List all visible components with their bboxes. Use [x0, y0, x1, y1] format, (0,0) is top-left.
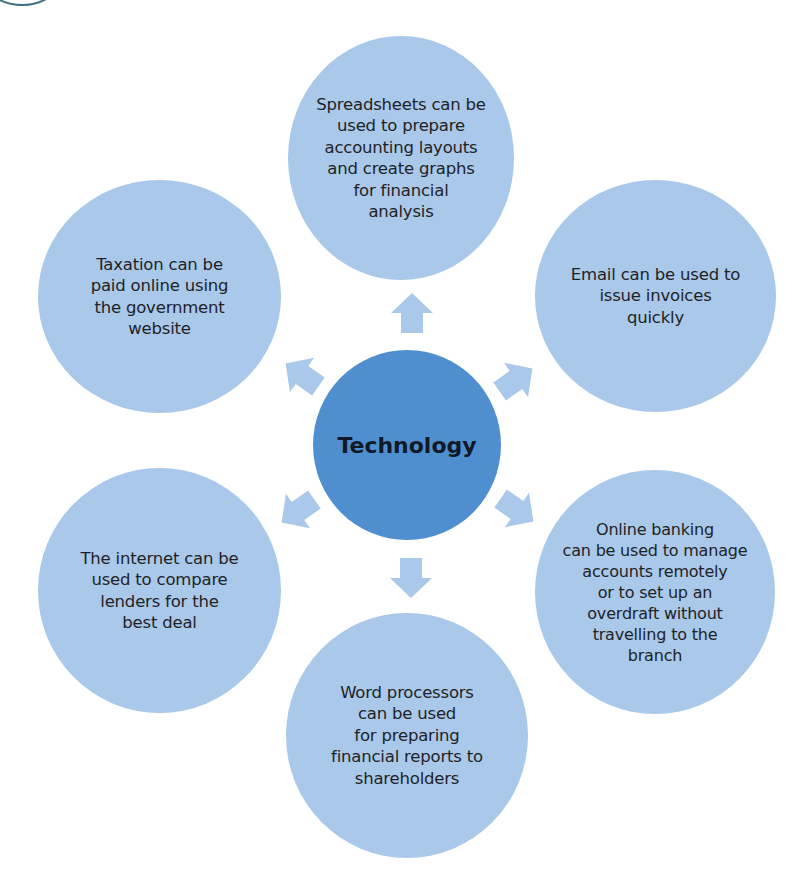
node-online-banking-text: Online banking can be used to manage acc… [557, 519, 754, 666]
arrow-up-left-icon [274, 346, 331, 403]
center-node-technology: Technology [313, 350, 501, 540]
node-internet-text: The internet can be used to compare lend… [74, 548, 244, 634]
center-node-label: Technology [337, 433, 476, 458]
decorative-corner-arc [0, 0, 74, 6]
node-email-text: Email can be used to issue invoices quic… [565, 264, 746, 329]
node-email: Email can be used to issue invoices quic… [535, 180, 776, 412]
arrow-down-right-icon [489, 481, 546, 538]
arrow-up-right-icon [488, 351, 545, 408]
node-online-banking: Online banking can be used to manage acc… [535, 470, 775, 714]
node-spreadsheets-text: Spreadsheets can be used to prepare acco… [310, 94, 491, 223]
node-word-processors: Word processors can be used for preparin… [286, 613, 528, 858]
arrow-down-icon [390, 558, 432, 598]
node-taxation-text: Taxation can be paid online using the go… [85, 254, 235, 340]
node-word-processors-text: Word processors can be used for preparin… [325, 682, 489, 790]
node-internet: The internet can be used to compare lend… [38, 468, 281, 713]
arrow-up-icon [391, 293, 433, 333]
node-taxation: Taxation can be paid online using the go… [38, 180, 281, 413]
arrow-down-left-icon [270, 482, 327, 539]
node-spreadsheets: Spreadsheets can be used to prepare acco… [288, 36, 514, 280]
